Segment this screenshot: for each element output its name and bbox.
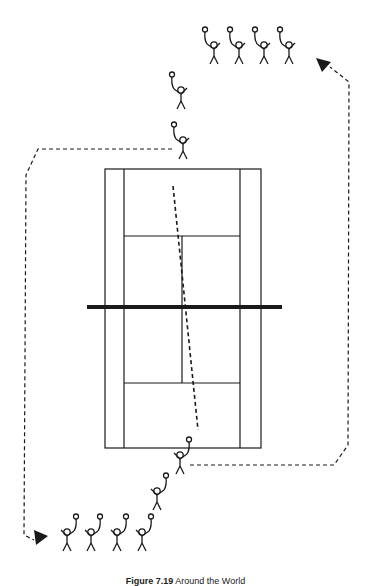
player-far-baseline [172,122,190,159]
player-waiting-far [170,72,188,109]
player-queue-bottom [61,514,154,551]
figure-caption: Figure 7.19 Around the World [0,576,371,586]
player-near-baseline [174,437,192,474]
caption-title: Around the World [175,576,245,586]
arrow-head-right-icon [316,58,331,72]
rotation-path-right [190,67,349,465]
caption-label: Figure 7.19 [126,576,174,586]
rotation-path-left [24,149,172,540]
arrow-head-left-icon [34,530,48,545]
player-waiting-near [151,473,169,510]
player-queue-top [203,27,296,64]
